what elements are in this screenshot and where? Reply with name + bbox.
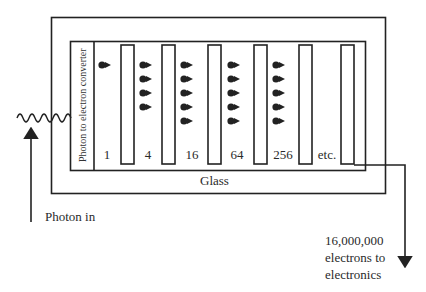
anode: [341, 45, 354, 164]
glass-label: Glass: [200, 173, 229, 189]
stage-label-etc: etc.: [312, 147, 342, 163]
electrons-stage-2: [139, 61, 152, 110]
photon-in-label: Photon in: [45, 209, 95, 225]
dynode-5: [299, 45, 312, 164]
output-label-line-1: 16,000,000: [325, 233, 384, 249]
electrons-stage-4: [227, 61, 240, 124]
stage-label-4: 64: [222, 147, 252, 163]
output-label-line-3: electronics: [325, 267, 381, 283]
dynode-2: [162, 45, 175, 164]
dynode-4: [254, 45, 267, 164]
output-label-line-2: electrons to: [325, 250, 385, 266]
glass-envelope: [52, 18, 386, 194]
stage-label-5: 256: [268, 147, 298, 163]
stage-label-3: 16: [177, 147, 207, 163]
electrons-stage-5: [272, 61, 285, 124]
stage-label-1: 1: [92, 147, 122, 163]
electrons-stage-1: [98, 61, 111, 68]
dynode-3: [208, 45, 221, 164]
converter-label: Photon to electron converter: [77, 48, 88, 162]
stage-label-2: 4: [133, 147, 163, 163]
electrons-stage-3: [180, 61, 193, 124]
photon-wave-icon: [17, 114, 71, 122]
